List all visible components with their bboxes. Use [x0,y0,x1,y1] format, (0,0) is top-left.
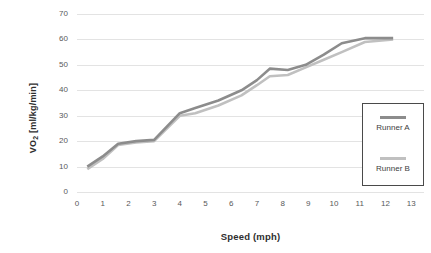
x-tick-label: 5 [196,200,216,208]
y-axis-title-subscript: 2 [32,136,39,140]
y-tick-label: 70 [46,10,68,18]
x-tick-label: 11 [350,200,370,208]
x-tick-label: 0 [67,200,87,208]
y-tick-label: 40 [46,86,68,94]
x-tick-label: 4 [170,200,190,208]
legend-entry-runner-b[interactable]: Runner B [363,157,423,173]
y-tick-label: 0 [46,188,68,196]
x-tick-label: 6 [221,200,241,208]
x-tick-label: 2 [118,200,138,208]
y-tick-label: 10 [46,163,68,171]
x-axis-tick-labels: 012345678910111213 [77,200,424,214]
series-line-runner-b [87,39,393,169]
legend-label: Runner B [363,165,423,173]
x-tick-label: 12 [375,200,395,208]
x-tick-label: 1 [93,200,113,208]
x-axis-title: Speed (mph) [77,231,424,242]
y-axis-tick-labels: 010203040506070 [46,0,68,253]
legend: Runner ARunner B [362,103,424,186]
legend-label: Runner A [363,124,423,132]
x-tick-label: 3 [144,200,164,208]
x-tick-label: 9 [298,200,318,208]
x-tick-label: 7 [247,200,267,208]
x-tick-label: 8 [273,200,293,208]
y-axis-title-unit: [ml/kg/min] [28,83,38,136]
x-tick-label: 13 [401,200,421,208]
x-tick-label: 10 [324,200,344,208]
legend-entry-runner-a[interactable]: Runner A [363,116,423,132]
y-axis-title: VO2 [ml/kg/min] [28,38,38,198]
vo2-speed-line-chart: VO2 [ml/kg/min] 010203040506070 01234567… [0,0,431,253]
y-tick-label: 60 [46,35,68,43]
y-tick-label: 30 [46,112,68,120]
legend-swatch-icon [380,116,406,119]
y-tick-label: 50 [46,61,68,69]
y-tick-label: 20 [46,137,68,145]
series-line-runner-a [87,38,393,166]
gridline [77,192,424,193]
y-axis-title-main: VO [28,140,38,153]
legend-swatch-icon [380,157,406,160]
